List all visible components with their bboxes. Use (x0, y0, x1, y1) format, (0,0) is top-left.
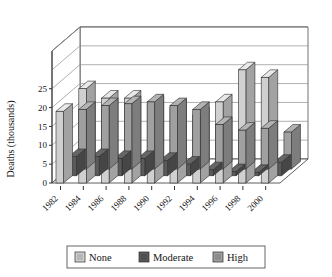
chart-container: 0510152025Deaths (thousands)198219841986… (0, 0, 332, 277)
x-tick-label-1982: 1982 (40, 193, 60, 213)
bar-side-face (223, 117, 232, 169)
bar-side-face (269, 121, 278, 169)
x-tick-label-1990: 1990 (131, 193, 151, 213)
y-tick-label-10: 10 (38, 140, 48, 150)
bar-side-face (132, 96, 141, 169)
y-tick-label-0: 0 (43, 178, 48, 188)
legend-swatch-inner (77, 254, 83, 260)
legend-label-none: None (89, 252, 112, 263)
bar-side-face (155, 94, 164, 169)
x-tick-label-1994: 1994 (177, 193, 197, 213)
bar-front-face (261, 128, 269, 169)
x-tick-label-1992: 1992 (154, 193, 174, 213)
bar-none-1982 (56, 104, 73, 183)
bar-chart-3d: 0510152025Deaths (thousands)198219841986… (0, 0, 332, 277)
x-tick-label-1988: 1988 (109, 193, 129, 213)
y-tick-label-20: 20 (38, 103, 48, 113)
legend-swatch-inner (215, 254, 221, 260)
legend-swatch-inner (141, 254, 147, 260)
x-tick-label-1998: 1998 (223, 193, 243, 213)
bar-front-face (238, 130, 246, 169)
y-tick-label-5: 5 (43, 159, 48, 169)
legend-item-moderate[interactable]: Moderate (139, 252, 194, 263)
legend-label-high: High (227, 252, 249, 263)
y-tick-label-25: 25 (38, 84, 48, 94)
bar-side-face (246, 123, 255, 169)
y-axis-title: Deaths (thousands) (5, 101, 17, 178)
x-tick-label-1986: 1986 (86, 193, 106, 213)
bar-side-face (109, 98, 118, 169)
bar-front-face (56, 111, 64, 183)
bar-high-1996 (238, 123, 255, 169)
bar-side-face (200, 102, 209, 169)
bar-high-1998 (261, 121, 278, 169)
legend-item-none[interactable]: None (75, 252, 112, 263)
bar-side-face (64, 104, 73, 183)
bar-high-1994 (216, 117, 233, 169)
x-tick-label-2000: 2000 (245, 193, 265, 213)
x-tick-label-1984: 1984 (63, 193, 83, 213)
legend-label-moderate: Moderate (153, 252, 194, 263)
legend-item-high[interactable]: High (213, 252, 249, 263)
y-tick-label-15: 15 (38, 122, 48, 132)
bar-side-face (86, 102, 95, 169)
bar-side-face (177, 98, 186, 169)
x-tick-label-1996: 1996 (200, 193, 220, 213)
